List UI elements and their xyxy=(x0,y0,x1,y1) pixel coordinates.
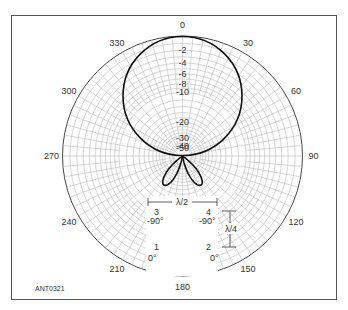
angle-label-150: 150 xyxy=(240,264,255,274)
grid-radial xyxy=(228,201,268,241)
angle-label-300: 300 xyxy=(62,86,77,96)
angle-label-30: 30 xyxy=(243,38,253,48)
angle-label-270: 270 xyxy=(44,151,59,161)
half-wave-label: λ/2 xyxy=(176,197,188,207)
element-4-phase: -90° xyxy=(199,216,216,226)
element-1-number: 1 xyxy=(154,242,159,252)
grid-radial xyxy=(98,201,138,241)
radial-label: -2 xyxy=(178,45,186,55)
angle-label-60: 60 xyxy=(291,86,301,96)
angle-label-90: 90 xyxy=(308,151,318,161)
element-1-phase: 0° xyxy=(148,253,157,263)
element-2-number: 2 xyxy=(206,242,211,252)
element-2-phase: 0° xyxy=(210,253,219,263)
angle-label-120: 120 xyxy=(288,217,303,227)
grid-radial xyxy=(98,71,138,111)
grid-radial xyxy=(105,64,176,149)
grid-radial xyxy=(189,64,260,149)
angle-label-330: 330 xyxy=(109,38,124,48)
figure-id-label: ANT0321 xyxy=(35,285,65,292)
angle-label-0: 0 xyxy=(180,20,185,30)
element-3-phase: -90° xyxy=(147,216,164,226)
grid-radial xyxy=(228,71,268,111)
radial-label: -20 xyxy=(176,117,189,127)
radial-label: -4 xyxy=(178,58,186,68)
radial-label: -10 xyxy=(176,87,189,97)
radial-label: -6 xyxy=(178,69,186,79)
quarter-wave-label: λ/4 xyxy=(225,224,237,234)
angle-label-180: 180 xyxy=(175,282,190,292)
grid-radial xyxy=(190,79,275,150)
radial-label: -50 xyxy=(176,143,189,153)
polar-plot: 0306090120150180210240270300330-2-4-6-8-… xyxy=(0,0,348,310)
grid-radial xyxy=(91,79,176,150)
angle-label-240: 240 xyxy=(62,217,77,227)
angle-label-210: 210 xyxy=(109,264,124,274)
